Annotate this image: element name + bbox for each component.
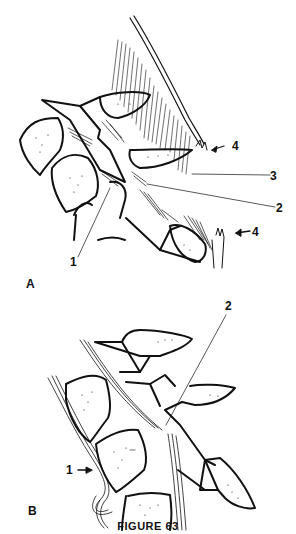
figure-caption: FIGURE 63 (0, 520, 296, 532)
callout-label-b-1: 1 (66, 464, 73, 476)
callout-label-a-3: 3 (270, 170, 277, 182)
panel-label-a: A (26, 278, 35, 290)
callout-label-b-2: 2 (225, 300, 232, 312)
callout-label-a-4-upper: 4 (232, 140, 239, 152)
panel-b-leader-line (166, 315, 226, 425)
callout-label-a-4-lower: 4 (252, 226, 259, 238)
callout-label-a-1: 1 (70, 256, 77, 268)
figure-illustration (0, 0, 296, 534)
panel-a-leader-lines (78, 174, 275, 257)
panel-label-b: B (28, 505, 37, 517)
callout-label-a-2: 2 (276, 202, 283, 214)
panel-b-drawing (48, 315, 255, 530)
